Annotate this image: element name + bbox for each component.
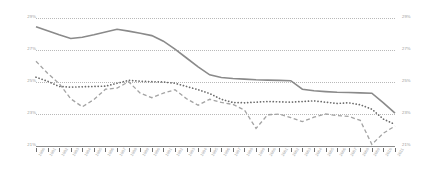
y-axis-right-tick-1: 27% — [402, 47, 432, 51]
x-axis-label: 1998 — [246, 147, 254, 157]
x-axis-label: 1992 — [176, 147, 184, 157]
x-axis-tick — [302, 148, 303, 152]
x-axis-label: 1990 — [153, 147, 161, 157]
x-axis-label: 1994 — [200, 147, 208, 157]
x-axis-tick — [59, 148, 60, 152]
x-axis-label: 2000 — [269, 147, 277, 157]
x-axis-tick — [36, 148, 37, 152]
x-axis-tick — [383, 148, 384, 152]
y-axis-left-tick-3: 23% — [10, 111, 36, 115]
gridline-0 — [36, 18, 395, 19]
y-axis-left-tick-2: 25% — [10, 79, 36, 83]
x-axis-label: 2005 — [327, 147, 335, 157]
x-axis-tick — [105, 148, 106, 152]
gridline-1 — [36, 50, 395, 51]
y-axis-right-tick-0: 29% — [402, 15, 432, 19]
x-axis-tick — [198, 148, 199, 152]
y-axis-right-tick-4: 21% — [402, 143, 432, 147]
x-axis-tick — [279, 148, 280, 152]
x-axis-label: 1995 — [211, 147, 219, 157]
x-axis-label: 2002 — [292, 147, 300, 157]
x-axis-label: 1989 — [142, 147, 150, 157]
x-axis-label: 1997 — [234, 147, 242, 157]
x-axis-label: 2011 — [397, 148, 405, 157]
x-axis-label: 1986 — [107, 147, 115, 157]
x-axis-label: 1982 — [61, 147, 69, 157]
x-axis-label: 2001 — [281, 147, 289, 157]
x-axis-label: 1983 — [72, 147, 80, 157]
x-axis-label: 2008 — [362, 147, 370, 157]
x-axis-label: 1980 — [38, 147, 46, 157]
x-axis-tick — [221, 148, 222, 152]
x-axis-tick — [337, 148, 338, 152]
x-axis-label: 2007 — [350, 147, 358, 157]
x-axis-label: 1981 — [49, 147, 57, 157]
x-axis-label: 1999 — [258, 147, 266, 157]
x-axis-label: 1996 — [223, 147, 231, 157]
x-axis-label: 2010 — [385, 147, 393, 157]
x-axis-label: 1991 — [165, 147, 173, 157]
x-axis-tick — [395, 148, 396, 152]
y-axis-right-tick-2: 25% — [402, 79, 432, 83]
x-axis-label: 1987 — [119, 147, 127, 157]
x-axis-tick — [163, 148, 164, 152]
x-axis-label: 2009 — [373, 147, 381, 157]
x-axis-label: 2004 — [315, 147, 323, 157]
x-axis-tick — [140, 148, 141, 152]
x-axis-label: 1988 — [130, 147, 138, 157]
gridline-2 — [36, 82, 395, 83]
y-axis-left-tick-1: 27% — [10, 47, 36, 51]
x-axis-tick — [117, 148, 118, 152]
plot-area — [36, 18, 395, 146]
x-axis-label: 1985 — [95, 147, 103, 157]
x-axis-label: 1993 — [188, 147, 196, 157]
y-axis-left-tick-0: 29% — [10, 15, 36, 19]
x-axis-label: 2006 — [339, 147, 347, 157]
x-axis-tick — [360, 148, 361, 152]
x-axis-tick — [82, 148, 83, 152]
chart-container: 29% 27% 25% 23% 21% 29% 27% 25% 23% 21% … — [0, 0, 434, 180]
x-axis-tick — [244, 148, 245, 152]
x-axis-tick — [256, 148, 257, 152]
gridline-3 — [36, 114, 395, 115]
x-axis-label: 2003 — [304, 147, 312, 157]
x-axis-label: 1984 — [84, 147, 92, 157]
y-axis-left-tick-4: 21% — [10, 143, 36, 147]
y-axis-right-tick-3: 23% — [402, 111, 432, 115]
